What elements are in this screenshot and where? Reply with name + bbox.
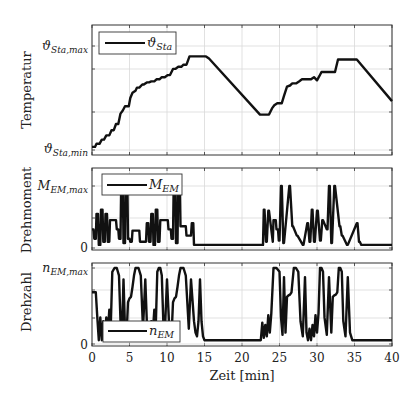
xtick-label: 0 — [88, 351, 96, 365]
panel-temperature: ϑSta ϑSta,max ϑSta,min Temperatur — [19, 25, 392, 158]
legend-speed: nEM — [103, 321, 180, 342]
xtick-label: 20 — [234, 351, 249, 365]
panel-torque: MEM MEM,max 0 Drehmoment — [19, 166, 392, 255]
ytick-label-torque-max: MEM,max — [37, 178, 88, 195]
ytick-label-speed-max: nEM,max — [42, 260, 88, 277]
figure: ϑSta ϑSta,max ϑSta,min Temperatur MEM ME… — [0, 0, 420, 405]
xtick-label: 25 — [272, 351, 287, 365]
ytick-label-speed-zero: 0 — [80, 338, 88, 352]
xtick-label: 35 — [347, 351, 362, 365]
ytick-label-temperature-max: ϑSta,max — [42, 38, 88, 55]
legend-temperature: ϑSta — [99, 32, 176, 54]
ylabel-speed: Drehzahl — [19, 272, 34, 332]
xtick-labels: 0510152025303540 — [88, 351, 399, 365]
legend-torque: MEM — [102, 174, 182, 195]
panel-speed: nEM nEM,max 0 Drehzahl 0510152025303540 … — [19, 260, 400, 383]
xtick-label: 10 — [159, 351, 174, 365]
xlabel-time: Zeit [min] — [209, 368, 274, 383]
xtick-label: 40 — [384, 351, 399, 365]
xtick-label: 5 — [126, 351, 134, 365]
ylabel-temperature: Temperatur — [19, 50, 34, 128]
ytick-label-torque-zero: 0 — [80, 241, 88, 255]
ytick-label-temperature-min: ϑSta,min — [44, 141, 88, 158]
xtick-label: 30 — [309, 351, 324, 365]
xtick-label: 15 — [197, 351, 212, 365]
ylabel-torque: Drehmoment — [19, 166, 34, 253]
